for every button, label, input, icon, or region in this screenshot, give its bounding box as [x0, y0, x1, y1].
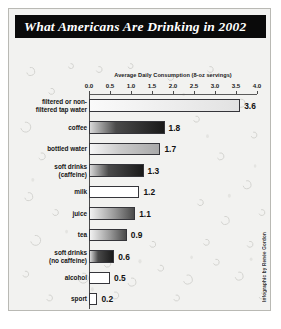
- title-bar: What Americans Are Drinking in 2002: [15, 15, 266, 38]
- x-axis-tick-labels: 0.00.51.01.52.02.53.03.54.0: [89, 82, 257, 91]
- bar: [89, 207, 135, 220]
- bar-row: soft drinks(no caffeine)0.6: [9, 247, 270, 266]
- bar-row: sport0.2: [9, 290, 270, 308]
- bar-value-label: 1.2: [143, 187, 155, 197]
- category-label: milk: [31, 188, 87, 195]
- bar-row: bottled water1.7: [9, 140, 270, 158]
- bar-value-label: 1.8: [169, 123, 181, 133]
- bar-value-label: 1.1: [139, 209, 151, 219]
- bar-value-label: 1.7: [164, 144, 176, 154]
- x-tick-label: 1.0: [127, 82, 136, 89]
- x-tick-label: 1.5: [148, 82, 157, 89]
- credit-line: Infographic by Renée Gordon: [262, 232, 267, 302]
- bar-row: alcohol0.5: [9, 269, 270, 287]
- bar: [89, 250, 114, 263]
- bar-row: juice1.1: [9, 204, 270, 223]
- bar: [89, 121, 165, 134]
- bar: [89, 186, 139, 198]
- bar-row: filtered or non-filtered tap water3.6: [9, 96, 270, 115]
- bar: [89, 293, 97, 305]
- category-label: sport: [31, 295, 87, 302]
- x-axis-line: [89, 94, 257, 95]
- bar-value-label: 1.3: [148, 166, 160, 176]
- category-label: juice: [31, 210, 87, 217]
- category-label: filtered or non-filtered tap water: [31, 98, 87, 113]
- bar: [89, 99, 240, 112]
- bar-value-label: 0.5: [114, 273, 126, 283]
- x-axis-title: Average Daily Consumption (8-oz servings…: [87, 72, 259, 78]
- category-label: bottled water: [31, 145, 87, 152]
- bar-row: soft drinks(caffeine)1.3: [9, 161, 270, 180]
- category-label: tea: [31, 231, 87, 238]
- bar-row: coffee1.8: [9, 118, 270, 137]
- x-tick-label: 0.0: [85, 82, 94, 89]
- x-tick-label: 3.5: [232, 82, 241, 89]
- x-tick-mark: [257, 91, 258, 94]
- page-title: What Americans Are Drinking in 2002: [15, 19, 246, 35]
- bar: [89, 272, 110, 284]
- x-tick-label: 4.0: [253, 82, 262, 89]
- x-tick-label: 2.5: [190, 82, 199, 89]
- x-tick-label: 3.0: [211, 82, 220, 89]
- bar-value-label: 0.9: [131, 230, 143, 240]
- bar-row: tea0.9: [9, 226, 270, 244]
- category-label: soft drinks(no caffeine): [31, 249, 87, 264]
- category-label: soft drinks(caffeine): [31, 163, 87, 178]
- category-label: alcohol: [31, 274, 87, 281]
- x-tick-label: 2.0: [169, 82, 178, 89]
- bar: [89, 164, 144, 177]
- bar: [89, 143, 160, 155]
- infographic-poster: What Americans Are Drinking in 2002 Aver…: [8, 8, 271, 311]
- bar-rows: filtered or non-filtered tap water3.6cof…: [9, 96, 270, 311]
- bar-value-label: 0.2: [101, 294, 113, 304]
- bar-row: milk1.2: [9, 183, 270, 201]
- bar-value-label: 0.6: [118, 252, 130, 262]
- bar: [89, 229, 127, 241]
- category-label: coffee: [31, 124, 87, 131]
- bar-value-label: 3.6: [244, 101, 256, 111]
- x-tick-label: 0.5: [106, 82, 115, 89]
